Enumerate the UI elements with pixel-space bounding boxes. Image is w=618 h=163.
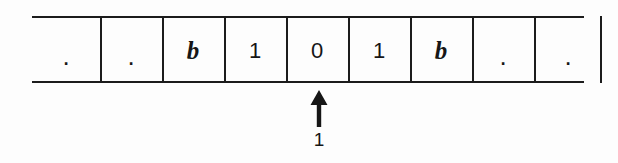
tape: . . b 1 0 1 b . (32, 16, 584, 83)
tape-cell-symbol: b (187, 38, 200, 63)
tape-cell-2[interactable]: b (162, 16, 224, 83)
tape-cell-symbol: b (435, 38, 448, 63)
tape-cell-row: . . b 1 0 1 b . (32, 16, 584, 83)
tape-cell-symbol: 1 (249, 40, 261, 62)
tape-cell-symbol: . (127, 43, 134, 69)
tape-cell-3[interactable]: 1 (224, 16, 286, 83)
arrow-up-icon (296, 88, 342, 128)
tape-cell-5[interactable]: 1 (348, 16, 410, 83)
tape-cell-6[interactable]: b (410, 16, 472, 83)
tape-cell-7[interactable]: . (472, 16, 534, 83)
head-state-label: 1 (296, 128, 342, 153)
tape-cell-0[interactable]: . (32, 16, 100, 83)
tape-cell-8[interactable]: . (534, 16, 602, 83)
tape-cell-1[interactable]: . (100, 16, 162, 83)
tape-cell-symbol: 1 (373, 40, 385, 62)
read-write-head: 1 (296, 88, 342, 158)
tape-cell-symbol: . (499, 43, 506, 69)
tape-cell-symbol: 0 (311, 40, 323, 62)
turing-machine-tape-diagram: . . b 1 0 1 b . (0, 0, 618, 163)
tape-cell-4[interactable]: 0 (286, 16, 348, 83)
tape-cell-symbol: . (564, 43, 571, 69)
tape-cell-symbol: . (62, 43, 69, 69)
